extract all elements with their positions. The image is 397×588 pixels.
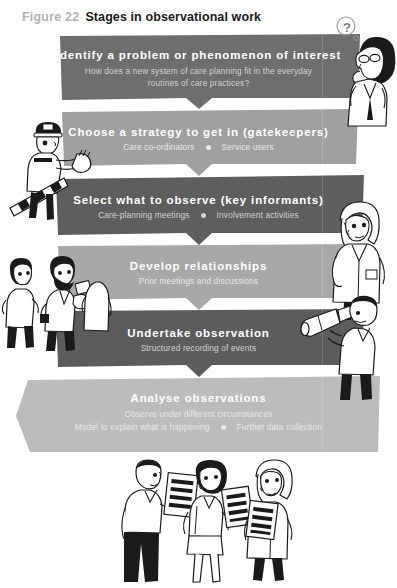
stage-choose-strategy[interactable]: Choose a strategy to get in (gatekeepers…	[0, 108, 397, 176]
document-icon	[246, 500, 278, 539]
stage-chevron-shape-5	[0, 307, 397, 377]
stage-chevron-shape-4	[0, 242, 397, 310]
figure-number: Figure 22	[22, 10, 79, 24]
document-icon	[221, 486, 253, 527]
stage-chevron-shape-6	[0, 374, 397, 452]
stage-undertake-observation[interactable]: Undertake observation Structured recordi…	[0, 307, 397, 377]
guide-line	[322, 307, 323, 377]
guide-line	[322, 374, 323, 452]
document-icon	[164, 473, 198, 518]
guide-line	[322, 108, 323, 176]
stage-analyse-observations[interactable]: Analyse observations Observe under diffe…	[0, 374, 397, 452]
stage-select-what-to-observe[interactable]: Select what to observe (key informants) …	[0, 173, 397, 245]
guide-line	[322, 242, 323, 310]
guide-line	[322, 34, 323, 109]
stage-identify-problem[interactable]: Identify a problem or phenomenon of inte…	[0, 34, 397, 109]
figure-page: Figure 22 Stages in observational work I…	[0, 0, 397, 588]
stage-chevron-shape-1	[0, 34, 397, 109]
stage-develop-relationships[interactable]: Develop relationships Prior meetings and…	[0, 242, 397, 310]
figure-title: Stages in observational work	[85, 10, 261, 24]
guide-line	[322, 173, 323, 245]
stage-chevron-shape-2	[0, 108, 397, 176]
stages-flow-diagram: Identify a problem or phenomenon of inte…	[0, 34, 397, 474]
illustration-documents-group	[100, 458, 300, 588]
figure-caption: Figure 22 Stages in observational work	[22, 10, 362, 30]
stage-chevron-shape-3	[0, 173, 397, 245]
